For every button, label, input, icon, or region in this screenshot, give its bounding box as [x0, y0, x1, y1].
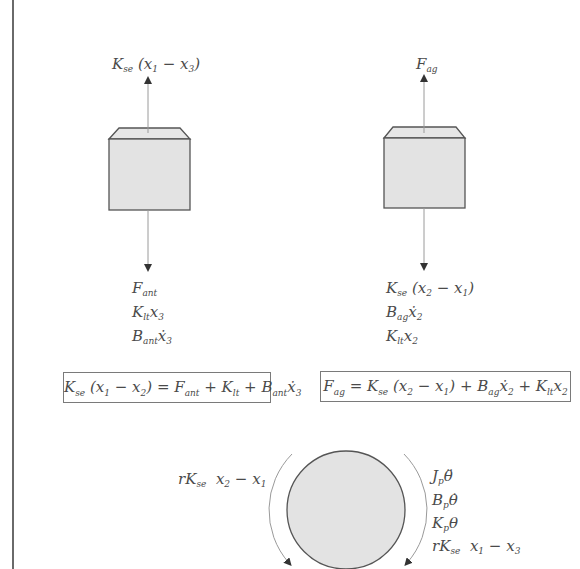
pulley-torque-stiffness: KpθK_p θ [432, 514, 458, 537]
left-equation-box: Kse (x1 − x2) = Fant + Klt + Bantẋ3 K_se… [63, 372, 271, 403]
right-equation-box: Fag = Kse (x2 − x1) + Bagẋ2 + Kltx2 F_ag… [320, 371, 571, 402]
right-force-klt: Kltx2K_lt x₂ [386, 327, 418, 350]
pulley-torque-tendon: rKse x1 − x3rK_se x₁ − x₃ [432, 537, 520, 560]
left-force-bant: Bantẋ3B_ant ẋ₃ [132, 327, 172, 350]
right-top-force-label: FagF_ag [416, 55, 438, 78]
right-force-bag: Bagẋ2B_ag ẋ₂ [386, 303, 422, 326]
pulley-left-torque: rKse x2 − x1rK_se x₂ − x₁ [178, 470, 266, 493]
right-force-kse: Kse (x2 − x1)K_se (x₂ − x₁) [386, 279, 474, 302]
left-top-force-label: Kse (x1 − x3) K_se (x₁ − x₃) [112, 55, 200, 78]
left-force-klt: Kltx3K_lt x₃ [132, 303, 164, 326]
pulley-torque-damping: Bpθ̇B_p θ̇ [432, 491, 458, 514]
free-body-diagram [0, 0, 580, 569]
left-mass-block [109, 128, 190, 210]
right-rotation-arrow [404, 454, 427, 563]
pulley-disc [287, 451, 405, 569]
right-mass-block [384, 127, 465, 208]
left-force-fant: FantF_ant [132, 279, 157, 302]
pulley-torque-inertia: Jpθ̈J_p θ̈ [432, 467, 453, 490]
